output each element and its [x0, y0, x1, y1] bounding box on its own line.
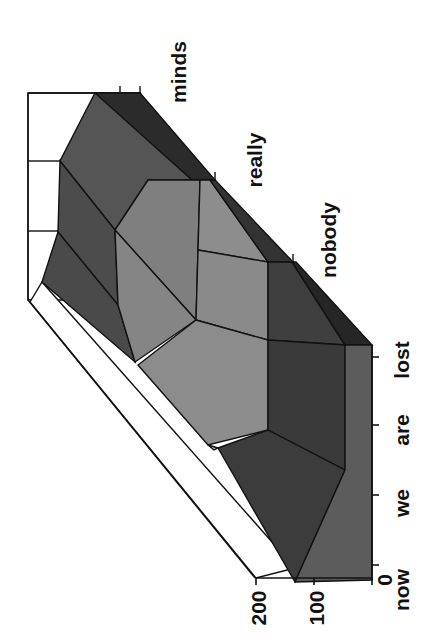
- x-tick-label: lost: [390, 341, 413, 378]
- depth-tick-label: really: [243, 132, 266, 187]
- depth-tick-label: minds: [167, 41, 190, 103]
- x-axis: [372, 345, 379, 580]
- z-tick-label: 200: [247, 590, 270, 625]
- x-tick-label: we: [390, 489, 413, 518]
- surface-chart: 0 100 200 now we are lost nobody really …: [0, 0, 431, 644]
- z-tick-label: 100: [305, 590, 328, 625]
- x-tick-label: are: [390, 414, 413, 446]
- depth-tick-label: nobody: [317, 202, 340, 278]
- x-tick-label: now: [390, 568, 413, 611]
